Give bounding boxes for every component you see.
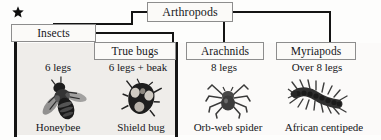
- taxon-label-arachnids: Arachnids: [201, 45, 249, 57]
- connector-arthropods-to-myriapods-vertical: [329, 11, 331, 43]
- taxon-box-arachnids[interactable]: Arachnids: [186, 42, 264, 60]
- specimen-name-african-centipede: African centipede: [272, 121, 376, 133]
- trait-label-shield-bug: 6 legs + beak: [90, 61, 186, 73]
- taxon-box-myriapods[interactable]: Myriapods: [276, 42, 356, 60]
- taxon-label-insects: Insects: [37, 27, 70, 39]
- connector-insects-to-truebugs-horizontal: [95, 32, 174, 34]
- specimen-name-honeybee: Honeybee: [18, 121, 98, 133]
- panel-divider-left: [14, 42, 17, 137]
- taxon-box-arthropods[interactable]: Arthropods: [147, 2, 233, 22]
- spider-illustration: [206, 78, 250, 120]
- centipede-illustration: [288, 78, 354, 122]
- star-icon: [12, 6, 24, 18]
- specimen-name-shield-bug: Shield bug: [98, 121, 184, 133]
- specimen-name-orb-web-spider: Orb-web spider: [182, 121, 274, 133]
- trait-label-honeybee: 6 legs: [20, 61, 96, 73]
- shield-bug-illustration: [122, 80, 160, 118]
- connector-arthropods-to-insects-horizontal: [131, 11, 148, 13]
- taxon-label-myriapods: Myriapods: [291, 45, 342, 57]
- connector-arthropods-to-arachnids: [223, 21, 225, 43]
- taxon-label-true-bugs: True bugs: [112, 45, 159, 57]
- taxon-label-arthropods: Arthropods: [162, 5, 218, 20]
- taxon-box-insects[interactable]: Insects: [11, 24, 96, 42]
- trait-label-orb-web-spider: 8 legs: [186, 61, 262, 73]
- arthropods-classification-diagram: Arthropods Insects True bugs Arachnids M…: [0, 0, 381, 140]
- honeybee-illustration: [36, 76, 90, 122]
- connector-arthropods-to-myriapods-horizontal: [232, 11, 331, 13]
- taxon-box-true-bugs[interactable]: True bugs: [94, 42, 176, 60]
- trait-label-african-centipede: Over 8 legs: [268, 61, 366, 73]
